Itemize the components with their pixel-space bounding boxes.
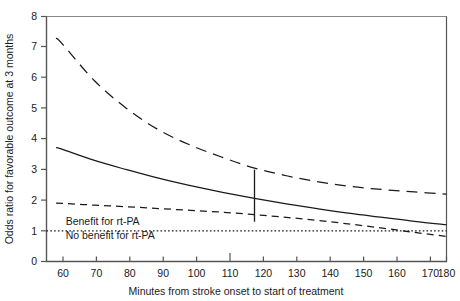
x-tick-label: 150	[355, 267, 373, 279]
series-line	[56, 148, 446, 225]
y-tick-label: 6	[31, 71, 37, 83]
odds-ratio-line-chart: 0 1 2 3 4 5 6 7 8 60	[0, 0, 460, 301]
data-series-layer	[56, 38, 446, 236]
benefit-label: Benefit for rt-PA	[66, 215, 140, 227]
no-benefit-label: No benefit for rt-PA	[66, 229, 155, 241]
y-tick-label: 1	[31, 225, 37, 237]
x-tick-labels: 60 70 80 90 100 110 120 130 140 150 160 …	[57, 267, 455, 279]
x-tick-label: 140	[321, 267, 339, 279]
y-axis-ticks	[41, 17, 47, 262]
x-tick-label: 130	[288, 267, 306, 279]
x-tick-label: 80	[124, 267, 136, 279]
y-tick-label: 7	[31, 40, 37, 52]
x-tick-label: 180	[438, 267, 456, 279]
x-tick-label: 100	[188, 267, 206, 279]
x-tick-label: 160	[388, 267, 406, 279]
y-tick-label: 4	[31, 132, 37, 144]
y-tick-label: 0	[31, 255, 37, 267]
y-tick-label: 3	[31, 163, 37, 175]
series-line	[56, 38, 446, 194]
y-tick-label: 2	[31, 194, 37, 206]
x-axis-ticks	[63, 253, 447, 262]
x-tick-label: 90	[157, 267, 169, 279]
x-tick-label: 170	[422, 267, 440, 279]
y-tick-label: 8	[31, 10, 37, 22]
chart-figure: 0 1 2 3 4 5 6 7 8 60	[0, 0, 460, 301]
y-tick-labels: 0 1 2 3 4 5 6 7 8	[31, 10, 37, 267]
y-axis-title: Odds ratio for favorable outcome at 3 mo…	[3, 34, 15, 245]
x-tick-label: 60	[57, 267, 69, 279]
x-tick-label: 120	[255, 267, 273, 279]
y-tick-label: 5	[31, 102, 37, 114]
x-tick-label: 70	[91, 267, 103, 279]
x-tick-label: 110	[222, 267, 239, 279]
x-axis-title: Minutes from stroke onset to start of tr…	[129, 285, 344, 297]
